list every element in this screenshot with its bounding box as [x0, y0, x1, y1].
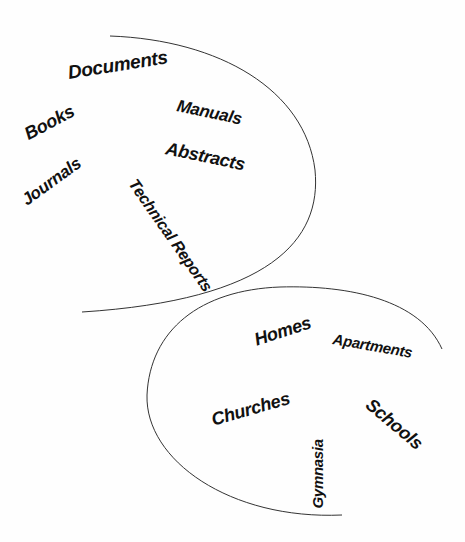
- diagram-canvas: Documents Manuals Books Abstracts Journa…: [0, 0, 465, 542]
- word-gymnasia: Gymnasia: [309, 439, 326, 508]
